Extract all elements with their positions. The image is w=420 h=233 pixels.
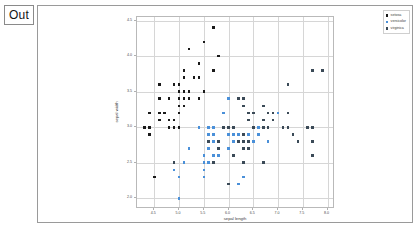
data-point-setosa: [203, 90, 206, 93]
gridline-vertical-3: [229, 17, 230, 207]
data-point-virginica: [173, 161, 176, 164]
data-point-setosa: [168, 97, 171, 100]
legend-label-setosa: setosa: [391, 14, 402, 18]
data-point-virginica: [242, 105, 245, 108]
data-point-setosa: [178, 90, 181, 93]
legend-item-versicolor: versicolor: [386, 20, 406, 25]
data-point-setosa: [178, 105, 181, 108]
y-tick-label-3: 3.5: [127, 89, 132, 93]
y-tick-mark-3: [134, 91, 136, 92]
data-point-versicolor: [183, 161, 186, 164]
gridline-horizontal-4: [137, 56, 333, 57]
data-point-virginica: [227, 183, 230, 186]
gridline-vertical-7: [328, 17, 329, 207]
data-point-virginica: [311, 140, 314, 143]
data-point-setosa: [188, 97, 191, 100]
data-point-setosa: [183, 97, 186, 100]
data-point-virginica: [287, 126, 290, 129]
data-point-versicolor: [207, 147, 210, 150]
data-point-virginica: [232, 154, 235, 157]
data-point-virginica: [267, 112, 270, 115]
data-point-setosa: [178, 126, 181, 129]
y-tick-label-1: 2.5: [127, 160, 132, 164]
data-point-virginica: [237, 140, 240, 143]
data-point-versicolor: [212, 154, 215, 157]
data-point-versicolor: [207, 126, 210, 129]
x-tick-label-0: 4.5: [151, 211, 156, 215]
data-point-versicolor: [267, 140, 270, 143]
y-tick-label-5: 4.5: [127, 18, 132, 22]
x-tick-label-1: 5.0: [176, 211, 181, 215]
x-tick-mark-7: [327, 208, 328, 210]
data-point-setosa: [178, 112, 181, 115]
data-point-versicolor: [207, 133, 210, 136]
data-point-virginica: [311, 154, 314, 157]
data-point-virginica: [242, 97, 245, 100]
data-point-virginica: [232, 126, 235, 129]
data-point-setosa: [168, 119, 171, 122]
data-point-setosa: [188, 48, 191, 51]
data-point-setosa: [168, 126, 171, 129]
data-point-virginica: [287, 112, 290, 115]
data-point-virginica: [247, 112, 250, 115]
data-point-versicolor: [222, 112, 225, 115]
data-point-virginica: [242, 161, 245, 164]
data-point-versicolor: [178, 176, 181, 179]
data-point-versicolor: [227, 97, 230, 100]
data-point-setosa: [183, 76, 186, 79]
gridline-vertical-6: [303, 17, 304, 207]
data-point-versicolor: [188, 147, 191, 150]
data-point-setosa: [203, 41, 206, 44]
data-point-virginica: [227, 126, 230, 129]
data-point-virginica: [252, 112, 255, 115]
data-point-setosa: [153, 176, 156, 179]
data-point-setosa: [173, 126, 176, 129]
data-point-virginica: [287, 83, 290, 86]
data-point-setosa: [173, 119, 176, 122]
y-tick-label-2: 3.0: [127, 124, 132, 128]
data-point-setosa: [217, 55, 220, 58]
legend-marker-icon-setosa: [386, 14, 389, 17]
data-point-versicolor: [212, 126, 215, 129]
data-point-virginica: [242, 133, 245, 136]
data-point-setosa: [158, 83, 161, 86]
data-point-setosa: [148, 133, 151, 136]
data-point-setosa: [183, 90, 186, 93]
data-point-virginica: [222, 126, 225, 129]
data-point-virginica: [272, 119, 275, 122]
data-point-virginica: [212, 161, 215, 164]
y-tick-mark-2: [134, 126, 136, 127]
y-tick-label-4: 4.0: [127, 53, 132, 57]
x-tick-mark-4: [252, 208, 253, 210]
data-point-virginica: [292, 133, 295, 136]
data-point-virginica: [297, 140, 300, 143]
data-point-virginica: [207, 140, 210, 143]
data-point-versicolor: [247, 133, 250, 136]
scatter-plot-figure: 4.55.05.56.06.57.07.58.0 2.02.53.03.54.0…: [38, 6, 414, 224]
data-point-versicolor: [203, 176, 206, 179]
data-point-setosa: [163, 112, 166, 115]
notebook-output-cell: 4.55.05.56.06.57.07.58.0 2.02.53.03.54.0…: [37, 5, 413, 223]
data-point-setosa: [143, 126, 146, 129]
data-point-setosa: [183, 69, 186, 72]
data-point-versicolor: [237, 183, 240, 186]
data-point-setosa: [198, 97, 201, 100]
data-point-setosa: [188, 90, 191, 93]
data-point-setosa: [198, 62, 201, 65]
legend-label-virginica: virginica: [391, 27, 404, 31]
data-point-virginica: [217, 140, 220, 143]
data-point-virginica: [282, 126, 285, 129]
data-point-virginica: [311, 69, 314, 72]
data-point-versicolor: [252, 140, 255, 143]
data-point-versicolor: [242, 176, 245, 179]
x-tick-mark-5: [277, 208, 278, 210]
data-point-versicolor: [227, 147, 230, 150]
data-point-versicolor: [212, 133, 215, 136]
x-tick-label-4: 6.5: [250, 211, 255, 215]
x-tick-mark-1: [178, 208, 179, 210]
y-tick-mark-0: [134, 197, 136, 198]
x-tick-label-5: 7.0: [275, 211, 280, 215]
data-point-setosa: [158, 112, 161, 115]
legend-label-versicolor: versicolor: [391, 20, 406, 24]
data-point-virginica: [247, 140, 250, 143]
